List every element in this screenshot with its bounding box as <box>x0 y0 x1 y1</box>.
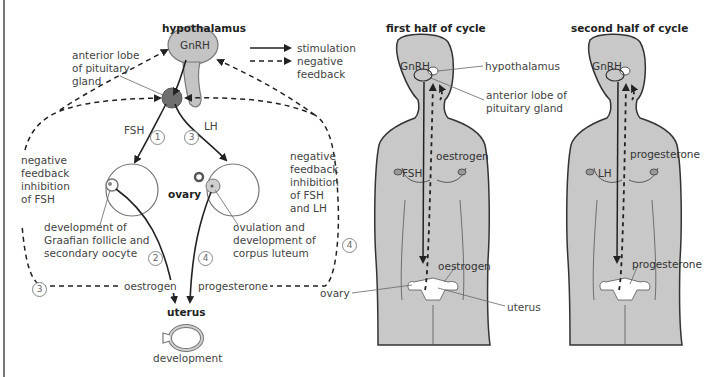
progesterone-label: progesterone <box>196 280 270 293</box>
ovary-corpus-luteum-icon <box>206 164 259 216</box>
first-half-pituitary-1: anterior lobe of <box>486 89 567 102</box>
legend-feedback: feedback <box>297 68 345 81</box>
uterus-title: uterus <box>167 306 206 319</box>
left-feedback-3: inhibition <box>21 180 70 193</box>
pituitary-label-1: anterior lobe <box>72 49 139 62</box>
ovulation-label-3: corpus luteum <box>233 247 309 260</box>
right-feedback-1: negative <box>290 150 336 163</box>
female-body-first-half <box>375 34 490 345</box>
uterus-development-icon <box>163 326 202 350</box>
second-half-gnrh: GnRH <box>592 60 622 73</box>
lh-down-arrow <box>617 82 618 262</box>
right-feedback-4: of FSH <box>290 189 324 202</box>
first-half-gnrh: GnRH <box>400 60 430 73</box>
gnrh-label: GnRH <box>180 39 210 52</box>
second-half-title: second half of cycle <box>571 22 688 35</box>
graafian-label-2: Graafian follicle and <box>44 234 149 247</box>
right-feedback-5: and LH <box>290 202 327 215</box>
first-half-uterus: uterus <box>507 301 541 314</box>
step-4-badge-right: 4 <box>342 238 357 253</box>
left-feedback-2: feedback <box>21 167 69 180</box>
right-feedback-3: inhibition <box>290 176 339 189</box>
step-4-badge: 4 <box>198 251 213 266</box>
left-feedback-1: negative <box>21 154 67 167</box>
pituitary-label-3: gland <box>72 75 101 88</box>
step-3-badge: 3 <box>184 130 199 145</box>
first-half-oestrogen-up: oestrogen <box>436 150 489 163</box>
right-feedback-2: feedback <box>290 163 338 176</box>
hypothalamus-title: hypothalamus <box>162 22 246 35</box>
graafian-label-3: secondary oocyte <box>44 247 137 260</box>
legend-negative: negative <box>297 55 343 68</box>
step-2-badge: 2 <box>148 251 163 266</box>
first-half-title: first half of cycle <box>386 22 486 35</box>
feedback-progesterone-pituitary <box>186 98 315 115</box>
ovary-label: ovary <box>168 188 201 201</box>
first-half-oestrogen-low: oestrogen <box>438 260 491 273</box>
second-half-progesterone-low: progesterone <box>632 258 702 271</box>
development-label: development <box>153 352 222 365</box>
reproductive-hormone-diagram: hypothalamus GnRH anterior lobe of pitui… <box>0 0 711 377</box>
legend-stimulation: stimulation <box>297 42 356 55</box>
first-half-ovary: ovary <box>320 287 350 300</box>
ovulation-label-1: ovulation and <box>233 221 305 234</box>
second-half-progesterone-up: progesterone <box>630 148 700 161</box>
ovary-follicle-icon <box>106 164 158 216</box>
step-3-badge-left: 3 <box>32 282 47 297</box>
step-1-badge: 1 <box>150 130 165 145</box>
graafian-label-1: development of <box>44 221 127 234</box>
fsh-down-arrow <box>423 82 424 262</box>
first-half-hypothalamus: hypothalamus <box>485 60 560 73</box>
left-feedback-4: of FSH <box>21 193 55 206</box>
female-body-second-half <box>567 34 682 345</box>
second-half-lh: LH <box>598 167 612 180</box>
first-half-pituitary-2: pituitary gland <box>486 102 563 115</box>
lh-arrow <box>175 104 226 160</box>
ovulation-label-2: development of <box>233 234 316 247</box>
ovum-icon <box>195 173 203 181</box>
pituitary-label-2: of pituitary <box>72 62 130 75</box>
oestrogen-label: oestrogen <box>122 280 179 293</box>
lh-label: LH <box>204 120 218 133</box>
first-half-fsh: FSH <box>402 167 422 180</box>
fsh-label: FSH <box>124 124 144 137</box>
